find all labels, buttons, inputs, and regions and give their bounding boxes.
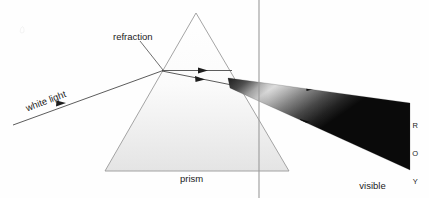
label-roygbiv: R O Y G B I V — [411, 103, 419, 198]
spectrum-letter-r: R — [411, 121, 419, 130]
prism-diagram: white light refraction prism visible spe… — [0, 0, 429, 198]
label-prism: prism — [180, 173, 203, 184]
label-visible-spectrum: visible spectrum — [353, 156, 392, 198]
spectrum-letter-y: Y — [411, 177, 419, 186]
scan-artifact — [20, 27, 24, 33]
spectrum-letter-o: O — [411, 149, 419, 158]
label-refraction: refraction — [113, 31, 153, 42]
refraction-leader-line — [140, 41, 163, 70]
label-visible-line1: visible — [353, 180, 392, 192]
